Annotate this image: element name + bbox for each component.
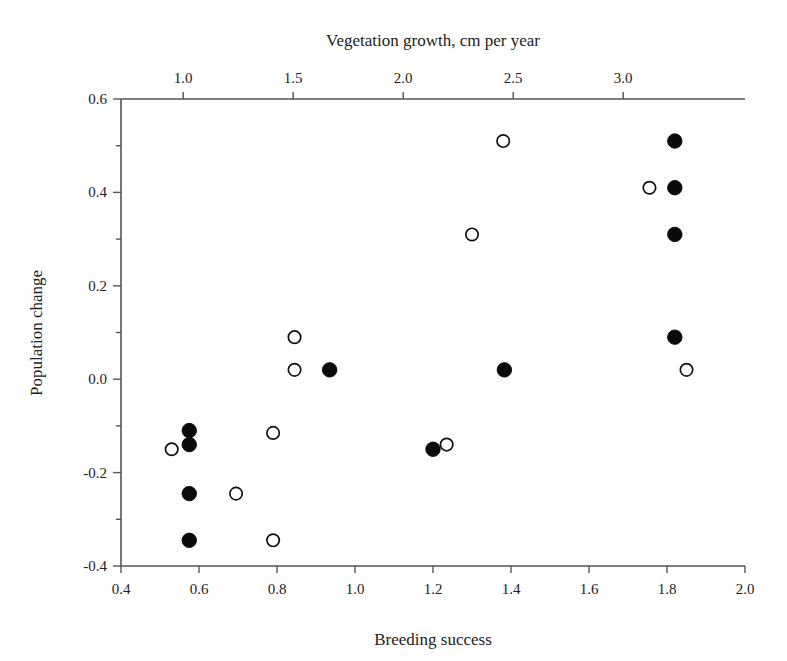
data-point-filled (322, 363, 336, 377)
bottom-tick-label: 1.6 (580, 581, 599, 597)
data-point-filled (182, 486, 196, 500)
top-axis-ticklabels: 1.01.52.02.53.0 (174, 70, 633, 86)
data-point-open (440, 438, 452, 450)
bottom-axis-ticklabels: 0.40.60.81.01.21.41.61.82.0 (112, 581, 755, 597)
bottom-tick-label: 1.4 (502, 581, 521, 597)
data-point-open (267, 534, 279, 546)
left-tick-label: -0.2 (83, 465, 107, 481)
top-axis-title: Vegetation growth, cm per year (326, 31, 540, 50)
left-tick-label: 0.2 (88, 278, 107, 294)
bottom-tick-label: 0.8 (268, 581, 287, 597)
data-point-open (643, 182, 655, 194)
data-point-filled (182, 423, 196, 437)
data-point-filled (668, 181, 682, 195)
data-point-open (230, 487, 242, 499)
top-tick-label: 1.5 (284, 70, 303, 86)
chart-canvas: Vegetation growth, cm per year Breeding … (0, 0, 787, 661)
data-point-filled (426, 442, 440, 456)
bottom-tick-label: 1.0 (346, 581, 365, 597)
top-tick-label: 2.0 (394, 70, 413, 86)
bottom-axis-title: Breeding success (374, 630, 492, 649)
data-point-open (267, 427, 279, 439)
left-tick-label: 0.0 (88, 371, 107, 387)
left-axis-title: Population change (27, 270, 46, 396)
data-point-filled (668, 330, 682, 344)
left-tick-label: 0.4 (88, 184, 107, 200)
data-point-filled (668, 227, 682, 241)
left-axis-ticklabels: 0.60.40.20.0-0.2-0.4 (83, 91, 107, 574)
left-tick-label: -0.4 (83, 558, 107, 574)
scatter-plot-figure: Vegetation growth, cm per year Breeding … (0, 0, 787, 661)
data-point-filled (182, 437, 196, 451)
data-point-open (680, 364, 692, 376)
filled-circle-data-points (182, 134, 682, 548)
data-point-filled (182, 533, 196, 547)
left-tick-label: 0.6 (88, 91, 107, 107)
bottom-tick-label: 1.8 (658, 581, 677, 597)
open-circle-data-points (166, 135, 693, 547)
data-point-filled (497, 363, 511, 377)
top-tick-label: 3.0 (614, 70, 633, 86)
top-axis-ticks (183, 92, 623, 99)
top-tick-label: 1.0 (174, 70, 193, 86)
data-point-open (166, 443, 178, 455)
data-point-filled (668, 134, 682, 148)
data-point-open (466, 228, 478, 240)
bottom-tick-label: 2.0 (736, 581, 755, 597)
data-point-open (497, 135, 509, 147)
bottom-tick-label: 1.2 (424, 581, 443, 597)
left-axis-ticks (113, 99, 121, 566)
data-point-open (288, 331, 300, 343)
top-tick-label: 2.5 (504, 70, 523, 86)
bottom-tick-label: 0.6 (190, 581, 209, 597)
bottom-tick-label: 0.4 (112, 581, 131, 597)
data-point-open (288, 364, 300, 376)
bottom-axis-ticks (121, 566, 745, 573)
